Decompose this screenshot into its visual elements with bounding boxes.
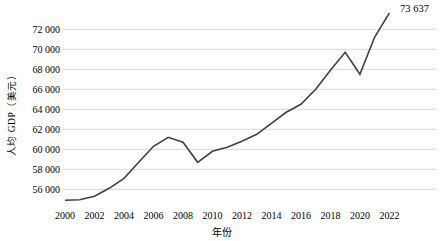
gridlines — [63, 29, 436, 189]
chart-svg: 56 00058 00060 00062 00064 00066 00068 0… — [0, 0, 442, 241]
x-tick-label: 2020 — [350, 210, 370, 221]
x-tick-label: 2014 — [261, 210, 281, 221]
x-tick-label: 2010 — [202, 210, 222, 221]
y-tick-labels: 56 00058 00060 00062 00064 00066 00068 0… — [33, 24, 61, 195]
y-tick-label: 62 000 — [33, 124, 61, 135]
x-tick-label: 2004 — [114, 210, 134, 221]
series-line — [65, 13, 389, 200]
x-tick-label: 2000 — [55, 210, 75, 221]
gdp-per-capita-line-chart: 56 00058 00060 00062 00064 00066 00068 0… — [0, 0, 442, 241]
y-tick-label: 60 000 — [33, 144, 61, 155]
y-tick-label: 68 000 — [33, 64, 61, 75]
y-tick-label: 64 000 — [33, 104, 61, 115]
x-axis-title: 年份 — [212, 224, 232, 239]
x-tick-labels: 2000200220042006200820102012201420162018… — [55, 210, 399, 221]
x-tick-label: 2002 — [84, 210, 104, 221]
y-tick-label: 66 000 — [33, 84, 61, 95]
y-tick-label: 70 000 — [33, 44, 61, 55]
y-tick-label: 56 000 — [33, 184, 61, 195]
x-tick-label: 2012 — [232, 210, 252, 221]
y-axis-title: 人均 GDP（美元） — [4, 70, 18, 156]
x-tick-label: 2008 — [173, 210, 193, 221]
x-tick-label: 2006 — [143, 210, 163, 221]
y-tick-label: 72 000 — [33, 24, 61, 35]
y-tick-label: 58 000 — [33, 164, 61, 175]
x-tick-label: 2018 — [320, 210, 340, 221]
x-tick-label: 2016 — [291, 210, 311, 221]
series-end-value-label: 73 637 — [400, 3, 429, 14]
x-tick-label: 2022 — [379, 210, 399, 221]
